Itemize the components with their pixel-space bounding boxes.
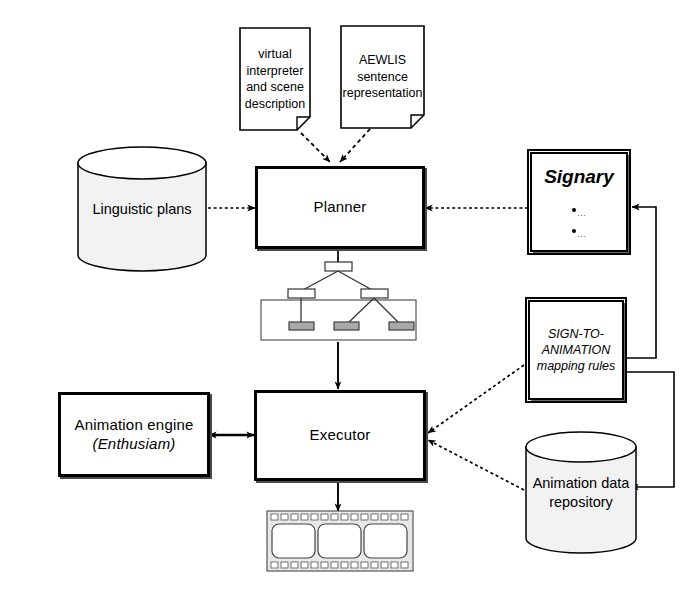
executor-label: Executor <box>310 426 371 445</box>
film-strip-shape-icon <box>266 510 414 572</box>
signary-bullet-list: … … <box>572 202 586 249</box>
plan-tree-artifact <box>258 258 420 343</box>
signary-bullet-item: … <box>572 228 586 240</box>
animation-data-repository-label: Animation data repository <box>524 431 638 555</box>
virtual-interpreter-document: virtual interpreter and scene descriptio… <box>239 27 311 131</box>
linguistic-plans-store: Linguistic plans <box>76 146 208 272</box>
signary-bullet-text: … <box>577 230 586 240</box>
executor-process: Executor <box>254 390 426 481</box>
aewlis-document-label: AEWLIS sentence representation <box>340 25 425 129</box>
signary-store: Signary … … <box>530 152 628 252</box>
bullet-dot-icon <box>572 229 576 233</box>
signary-bullet-text: … <box>577 209 586 219</box>
edge-repository-to-executor <box>428 440 524 490</box>
edge-virtual-doc-to-planner <box>301 133 330 162</box>
plan-tree-shape-icon <box>258 258 420 343</box>
virtual-interpreter-document-label: virtual interpreter and scene descriptio… <box>239 27 311 131</box>
architecture-diagram: virtual interpreter and scene descriptio… <box>0 0 692 589</box>
planner-label: Planner <box>313 198 366 217</box>
animation-engine-subtitle: (Enthusiam) <box>92 435 175 454</box>
mapping-rules-label: SIGN-TO-ANIMATION mapping rules <box>530 326 622 374</box>
bullet-dot-icon <box>572 208 576 212</box>
edge-aewlis-doc-to-planner <box>340 129 370 162</box>
signary-bullet-item: … <box>572 207 586 219</box>
film-strip-artifact <box>266 510 414 572</box>
signary-title: Signary <box>544 166 614 188</box>
animation-data-repository-store: Animation data repository <box>524 431 638 555</box>
planner-process: Planner <box>255 166 425 249</box>
sign-to-animation-mapping-rules-store: SIGN-TO-ANIMATION mapping rules <box>528 300 624 400</box>
animation-engine-process: Animation engine (Enthusiam) <box>58 392 210 477</box>
aewlis-document: AEWLIS sentence representation <box>340 25 425 129</box>
edge-mapping-rules-to-executor <box>428 365 524 433</box>
edge-mapping-rules-to-signary <box>624 207 656 358</box>
animation-engine-label: Animation engine <box>74 416 193 435</box>
linguistic-plans-label: Linguistic plans <box>76 146 208 272</box>
